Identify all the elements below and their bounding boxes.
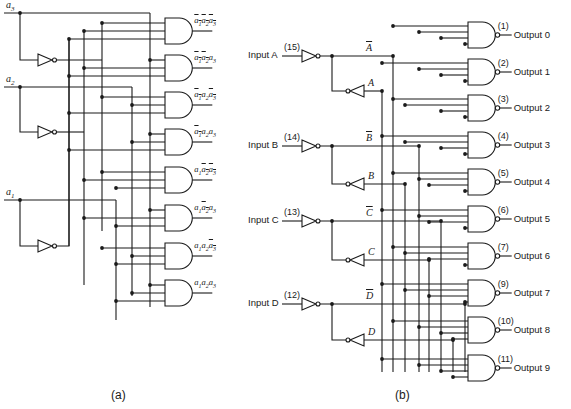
output-term-label: a1a2a3 bbox=[194, 89, 216, 101]
junction-dot bbox=[417, 177, 421, 181]
output-1-label: Output 1 bbox=[514, 66, 550, 77]
junction-dot bbox=[67, 37, 71, 41]
junction-dot bbox=[380, 61, 384, 65]
nand-gate-2 bbox=[468, 95, 495, 121]
junction-dot bbox=[439, 369, 443, 373]
junction-dot bbox=[463, 300, 467, 304]
output-pin-number: (6) bbox=[498, 205, 509, 215]
junction-dot bbox=[114, 224, 118, 228]
junction-dot bbox=[82, 216, 86, 220]
junction-dot bbox=[130, 254, 134, 258]
inverter-a1 bbox=[38, 240, 52, 252]
caption-b: (b) bbox=[395, 388, 410, 402]
junction-dot bbox=[380, 357, 384, 361]
buffer-inverter bbox=[350, 334, 364, 346]
input-label-a1: a1 bbox=[6, 186, 15, 200]
output-pin-number: (1) bbox=[498, 21, 509, 31]
junction-dot bbox=[417, 214, 421, 218]
term: a2 bbox=[202, 164, 209, 174]
inversion-bubble bbox=[53, 130, 57, 134]
junction-dot bbox=[403, 140, 407, 144]
junction-dot bbox=[427, 294, 431, 298]
term: a1 bbox=[194, 164, 201, 174]
inversion-bubble bbox=[53, 58, 57, 62]
junction-dot bbox=[439, 109, 443, 113]
nand-gate-1 bbox=[468, 59, 495, 85]
buffer-inverter bbox=[350, 178, 364, 190]
junction-dot bbox=[130, 103, 134, 107]
output-6-label: Output 6 bbox=[514, 250, 550, 261]
term: a3 bbox=[209, 52, 216, 62]
inversion-bubble bbox=[495, 180, 499, 184]
term: a2 bbox=[202, 89, 209, 99]
term: a2 bbox=[202, 277, 209, 287]
nand-gate-0 bbox=[468, 22, 495, 48]
inversion-bubble bbox=[495, 291, 499, 295]
caption-a: (a) bbox=[111, 388, 126, 402]
output-8-label: Output 8 bbox=[514, 324, 550, 335]
input-input-c-label: Input C bbox=[248, 214, 279, 225]
complement-label-A: A bbox=[366, 42, 372, 53]
input-inverter bbox=[302, 215, 316, 227]
term: a1 bbox=[194, 89, 201, 99]
junction-dot bbox=[391, 171, 395, 175]
junction-dot bbox=[380, 89, 384, 93]
junction-dot bbox=[114, 262, 118, 266]
output-7-label: Output 7 bbox=[514, 287, 550, 298]
junction-dot bbox=[82, 178, 86, 182]
output-pin-number: (3) bbox=[498, 94, 509, 104]
output-pin-number: (4) bbox=[498, 131, 509, 141]
and-gate-6 bbox=[165, 243, 192, 269]
inversion-bubble bbox=[53, 244, 57, 248]
junction-dot bbox=[100, 95, 104, 99]
true-label-D: D bbox=[368, 326, 375, 337]
inversion-bubble bbox=[316, 219, 320, 223]
inversion-bubble bbox=[495, 70, 499, 74]
junction-dot bbox=[439, 73, 443, 77]
junction-dot bbox=[439, 331, 443, 335]
junction-dot bbox=[100, 170, 104, 174]
inversion-bubble bbox=[495, 366, 499, 370]
junction-dot bbox=[100, 21, 104, 25]
term: a3 bbox=[209, 15, 216, 25]
nand-gate-4 bbox=[468, 169, 495, 195]
inversion-bubble bbox=[495, 106, 499, 110]
junction-dot bbox=[148, 208, 152, 212]
input-inverter bbox=[302, 298, 316, 310]
junction-dot bbox=[67, 74, 71, 78]
junction-dot bbox=[463, 115, 467, 119]
input-pin-number: (12) bbox=[284, 290, 300, 300]
true-label-C: C bbox=[368, 246, 375, 257]
junction-dot bbox=[439, 146, 443, 150]
and-gate-7 bbox=[165, 280, 192, 306]
true-label-A: A bbox=[368, 77, 374, 88]
complement-label-D: D bbox=[366, 290, 373, 301]
junction-dot bbox=[391, 54, 395, 58]
buffer-inverter bbox=[350, 254, 364, 266]
input-input-d-label: Input D bbox=[248, 297, 279, 308]
term: a2 bbox=[202, 202, 209, 212]
junction-dot bbox=[148, 58, 152, 62]
term: a3 bbox=[209, 164, 216, 174]
input-inverter bbox=[302, 140, 316, 152]
input-label-a2: a2 bbox=[6, 73, 15, 87]
junction-dot bbox=[417, 30, 421, 34]
term: a1 bbox=[194, 202, 201, 212]
junction-dot bbox=[451, 375, 455, 379]
junction-dot bbox=[463, 42, 467, 46]
term: a3 bbox=[209, 277, 216, 287]
junction-dot bbox=[130, 291, 134, 295]
junction-dot bbox=[148, 132, 152, 136]
nand-gate-6 bbox=[468, 243, 495, 269]
and-gate-4 bbox=[165, 167, 192, 193]
junction-dot bbox=[380, 208, 384, 212]
output-term-label: a1a2a3 bbox=[194, 15, 216, 27]
input-input-a-label: Input A bbox=[248, 49, 278, 60]
output-pin-number: (10) bbox=[498, 316, 514, 326]
term: a3 bbox=[209, 240, 216, 250]
and-gate-3 bbox=[165, 129, 192, 155]
decoder-diagram bbox=[0, 0, 571, 409]
junction-dot bbox=[403, 182, 407, 186]
junction-dot bbox=[403, 251, 407, 255]
and-gate-2 bbox=[165, 92, 192, 118]
